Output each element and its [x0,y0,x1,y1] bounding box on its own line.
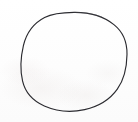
circle-outline-path [21,12,127,111]
circle-sketch-svg: circle [0,0,138,122]
sketch-canvas: circle [0,0,138,122]
